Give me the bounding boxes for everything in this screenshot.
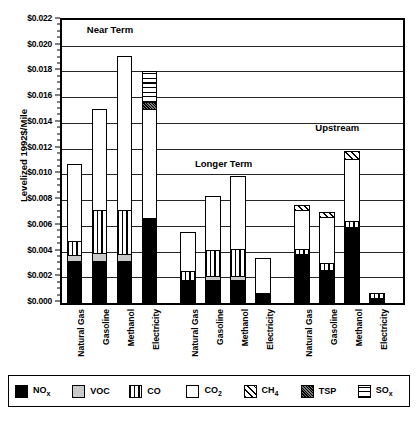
y-axis-title: Levelized 1992$/Mile — [18, 81, 29, 231]
stacked-bar[interactable] — [230, 176, 245, 303]
legend-item-nox[interactable]: NOx — [9, 385, 66, 398]
legend-label-co2: CO2 — [204, 385, 221, 397]
x-axis-labels: Natural GasGasolineMethanolElectricityNa… — [60, 307, 405, 369]
bar-column[interactable] — [67, 20, 82, 303]
bar-column[interactable] — [319, 20, 334, 303]
chart-root: Levelized 1992$/Mile $0.000$0.002$0.004$… — [0, 0, 418, 424]
legend-item-sox[interactable]: SOx — [352, 385, 409, 398]
y-tick-label: $0.012 — [27, 142, 52, 152]
bar-segment-co2 — [344, 159, 359, 221]
legend-item-voc[interactable]: VOC — [66, 385, 123, 398]
bar-segment-co2 — [92, 109, 107, 211]
stacked-bar[interactable] — [369, 293, 384, 303]
stacked-bar[interactable] — [294, 205, 309, 303]
bar-segment-co — [92, 210, 107, 252]
legend-swatch-co2 — [186, 385, 199, 398]
stacked-bar[interactable] — [255, 258, 270, 303]
x-tick-label: Methanol — [354, 309, 364, 346]
bar-segment-voc — [205, 276, 220, 280]
bar-segment-nox — [142, 218, 157, 303]
bar-column[interactable] — [92, 20, 107, 303]
y-tick-label: $0.002 — [27, 270, 52, 280]
y-tick-label: $0.000 — [27, 296, 52, 306]
legend-swatch-co — [129, 385, 142, 398]
y-tick-label: $0.006 — [27, 219, 52, 229]
y-tick-label: $0.004 — [27, 245, 52, 255]
bar-segment-co — [319, 263, 334, 269]
y-axis: Levelized 1992$/Mile $0.000$0.002$0.004$… — [0, 0, 60, 325]
bar-column[interactable] — [180, 20, 195, 303]
legend-label-ch4: CH4 — [262, 385, 279, 397]
y-tick-label: $0.022 — [27, 13, 52, 23]
bar-segment-nox — [319, 270, 334, 303]
x-tick-label: Natural Gas — [76, 309, 86, 357]
bar-column[interactable] — [117, 20, 132, 303]
y-tick-label: $0.010 — [27, 167, 52, 177]
bar-column[interactable] — [142, 20, 157, 303]
bar-column[interactable] — [344, 20, 359, 303]
legend-label-nox: NOx — [33, 385, 50, 397]
bar-segment-nox — [92, 261, 107, 303]
bar-segment-nox — [294, 254, 309, 303]
stacked-bar[interactable] — [205, 196, 220, 303]
legend-swatch-nox — [15, 385, 28, 398]
bar-segment-co2 — [319, 217, 334, 263]
legend-item-ch4[interactable]: CH4 — [238, 385, 295, 398]
bar-segment-co2 — [180, 232, 195, 271]
x-tick-label: Methanol — [240, 309, 250, 346]
bar-segment-nox — [180, 280, 195, 303]
bar-column[interactable] — [255, 20, 270, 303]
bar-segment-co — [230, 249, 245, 276]
legend-label-sox: SOx — [376, 385, 393, 397]
group-label-near-term: Near Term — [87, 24, 133, 35]
x-tick-label: Electricity — [379, 309, 389, 350]
bar-segment-voc — [67, 255, 82, 260]
legend-item-tsp[interactable]: TSP — [295, 385, 352, 398]
stacked-bar[interactable] — [117, 56, 132, 303]
bar-segment-voc — [92, 253, 107, 261]
x-tick-label: Gasoline — [329, 309, 339, 345]
legend-item-co[interactable]: CO — [123, 385, 180, 398]
bar-segment-ch4 — [319, 212, 334, 217]
bar-segment-sox — [142, 71, 157, 102]
stacked-bar[interactable] — [92, 109, 107, 303]
x-tick-label: Gasoline — [101, 309, 111, 345]
stacked-bar[interactable] — [180, 232, 195, 303]
legend-label-tsp: TSP — [319, 386, 337, 396]
legend-swatch-sox — [358, 385, 371, 398]
bar-segment-tsp — [142, 102, 157, 108]
x-tick-label: Electricity — [151, 309, 161, 350]
bar-segment-nox — [67, 261, 82, 303]
bar-segment-voc — [117, 254, 132, 260]
bar-segment-co — [344, 221, 359, 227]
legend-label-voc: VOC — [90, 386, 110, 396]
legend-item-co2[interactable]: CO2 — [180, 385, 237, 398]
legend-swatch-ch4 — [244, 385, 257, 398]
y-tick-label: $0.018 — [27, 64, 52, 74]
bar-segment-co — [369, 293, 384, 298]
stacked-bar[interactable] — [142, 71, 157, 303]
bar-column[interactable] — [294, 20, 309, 303]
x-tick-label: Natural Gas — [190, 309, 200, 357]
bar-segment-nox — [344, 227, 359, 303]
bar-segment-co — [117, 210, 132, 254]
y-tick-label: $0.008 — [27, 193, 52, 203]
legend-swatch-tsp — [301, 385, 314, 398]
stacked-bar[interactable] — [344, 151, 359, 303]
bar-column[interactable] — [369, 20, 384, 303]
stacked-bar[interactable] — [67, 164, 82, 303]
bar-segment-co — [294, 249, 309, 254]
stacked-bar[interactable] — [319, 212, 334, 303]
chart-legend: NOxVOCCOCO2CH4TSPSOx — [8, 375, 410, 407]
bar-segment-co2 — [142, 109, 157, 218]
bar-segment-co2 — [67, 164, 82, 241]
bar-segment-nox — [205, 280, 220, 303]
x-tick-label: Electricity — [265, 309, 275, 350]
x-tick-label: Gasoline — [215, 309, 225, 345]
bar-segment-voc — [230, 276, 245, 280]
bar-segment-nox — [255, 293, 270, 303]
bar-segment-co — [205, 250, 220, 276]
bar-segment-co — [180, 271, 195, 280]
x-tick-label: Natural Gas — [304, 309, 314, 357]
bar-segment-nox — [230, 280, 245, 303]
